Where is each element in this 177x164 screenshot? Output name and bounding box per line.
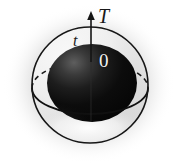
axis-label-t: t — [73, 33, 77, 49]
diagram-canvas — [0, 0, 177, 164]
axis-label-T: T — [98, 6, 109, 26]
sphere-diagram-figure: T t 0 — [0, 0, 177, 164]
origin-label-0: 0 — [99, 51, 109, 70]
